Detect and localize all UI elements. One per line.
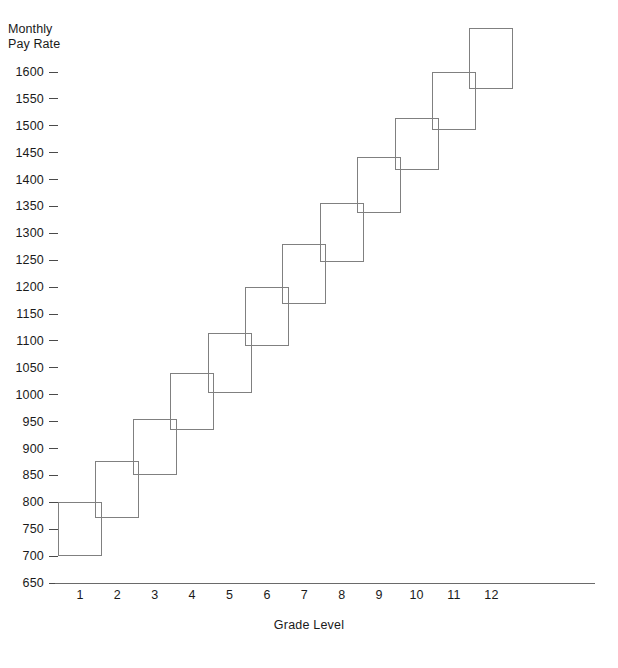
y-axis-tick-label: 950 — [23, 415, 49, 429]
y-axis-tick-1150: 1150 — [0, 307, 58, 321]
y-axis-tick-mark — [49, 233, 58, 234]
y-axis-tick-label: 1000 — [15, 388, 49, 402]
y-axis-tick-mark — [49, 529, 58, 530]
y-axis-tick-mark — [49, 206, 58, 207]
y-axis-tick-850: 850 — [0, 468, 58, 482]
y-axis-tick-1050: 1050 — [0, 361, 58, 375]
y-axis-tick-mark — [49, 502, 58, 503]
y-axis-tick-750: 750 — [0, 522, 58, 536]
y-axis-tick-label: 1400 — [15, 173, 49, 187]
x-axis-title: Grade Level — [0, 618, 618, 632]
range-box-grade-12 — [469, 28, 513, 89]
pay-rate-chart: Monthly Pay Rate 16001550150014501400135… — [0, 0, 618, 668]
y-axis-tick-1000: 1000 — [0, 388, 58, 402]
y-axis-tick-mark — [49, 421, 58, 422]
y-axis-tick-1550: 1550 — [0, 92, 58, 106]
y-axis-tick-mark — [49, 314, 58, 315]
y-axis-tick-label: 1500 — [15, 119, 49, 133]
y-axis-tick-label: 1450 — [15, 146, 49, 160]
x-axis-tick-label-3: 3 — [140, 588, 170, 602]
y-axis-tick-label: 1150 — [16, 307, 49, 321]
x-axis-line — [55, 583, 595, 584]
y-axis-tick-1300: 1300 — [0, 226, 58, 240]
y-axis-tick-mark — [49, 287, 58, 288]
y-axis-tick-mark — [49, 98, 58, 99]
x-axis-tick-label-11: 11 — [439, 588, 469, 602]
x-axis-tick-label-7: 7 — [289, 588, 319, 602]
y-axis-tick-mark — [49, 475, 58, 476]
y-axis-tick-label: 1350 — [15, 199, 49, 213]
x-axis-tick-label-8: 8 — [327, 588, 357, 602]
y-axis-tick-mark — [49, 556, 58, 557]
y-axis-tick-label: 1100 — [16, 334, 49, 348]
x-axis-tick-label-1: 1 — [65, 588, 95, 602]
y-axis-tick-1200: 1200 — [0, 280, 58, 294]
y-axis-tick-label: 1600 — [15, 65, 49, 79]
y-axis-tick-label: 1050 — [15, 361, 49, 375]
y-axis-tick-label: 1200 — [15, 280, 49, 294]
y-axis-tick-label: 650 — [23, 576, 49, 590]
y-axis-tick-mark — [49, 72, 58, 73]
y-axis-tick-label: 700 — [23, 549, 49, 563]
y-axis-tick-900: 900 — [0, 442, 58, 456]
x-axis-tick-label-4: 4 — [177, 588, 207, 602]
y-axis-tick-mark — [49, 125, 58, 126]
y-axis-tick-label: 1250 — [15, 253, 49, 267]
y-axis-tick-1100: 1100 — [0, 334, 58, 348]
y-axis-tick-1350: 1350 — [0, 199, 58, 213]
y-axis-tick-label: 800 — [23, 495, 49, 509]
y-axis-tick-650: 650 — [0, 576, 58, 590]
y-axis-tick-mark — [49, 260, 58, 261]
y-axis-tick-label: 1300 — [15, 226, 49, 240]
y-axis-tick-1450: 1450 — [0, 146, 58, 160]
y-axis-tick-label: 850 — [23, 468, 49, 482]
y-axis-tick-700: 700 — [0, 549, 58, 563]
y-axis-tick-1250: 1250 — [0, 253, 58, 267]
y-axis-tick-1400: 1400 — [0, 173, 58, 187]
y-axis-title: Monthly Pay Rate — [8, 22, 60, 52]
y-axis-tick-800: 800 — [0, 495, 58, 509]
y-axis-tick-mark — [49, 340, 58, 341]
x-axis-tick-label-9: 9 — [364, 588, 394, 602]
y-axis-tick-label: 750 — [23, 522, 49, 536]
y-axis-tick-950: 950 — [0, 415, 58, 429]
x-axis-tick-label-5: 5 — [215, 588, 245, 602]
y-axis-tick-mark — [49, 152, 58, 153]
y-axis-tick-mark — [49, 394, 58, 395]
y-axis-tick-label: 1550 — [15, 92, 49, 106]
x-axis-tick-label-2: 2 — [102, 588, 132, 602]
x-axis-tick-label-10: 10 — [402, 588, 432, 602]
y-axis-tick-1500: 1500 — [0, 119, 58, 133]
x-axis-tick-label-12: 12 — [476, 588, 506, 602]
y-axis-tick-mark — [49, 448, 58, 449]
y-axis-tick-mark — [49, 367, 58, 368]
x-axis-tick-label-6: 6 — [252, 588, 282, 602]
y-axis-tick-1600: 1600 — [0, 65, 58, 79]
y-axis-tick-label: 900 — [23, 442, 49, 456]
y-axis-tick-mark — [49, 179, 58, 180]
